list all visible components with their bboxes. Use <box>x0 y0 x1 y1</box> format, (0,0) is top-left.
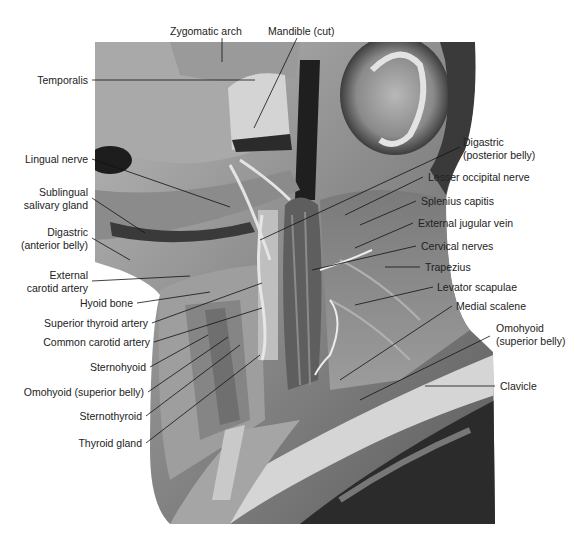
label-sternothyroid: Sternothyroid <box>80 410 142 423</box>
label-common-carotid-artery: Common carotid artery <box>43 336 150 349</box>
label-external-jugular-vein: External jugular vein <box>418 217 513 230</box>
neck-dissection-photo <box>0 0 587 550</box>
label-mandible-cut: Mandible (cut) <box>268 25 335 38</box>
label-line: (anterior belly) <box>21 239 88 252</box>
label-splenius-capitis: Splenius capitis <box>421 195 494 208</box>
label-lesser-occipital-nerve: Lesser occipital nerve <box>428 171 530 184</box>
label-trapezius: Trapezius <box>425 261 471 274</box>
label-line: External <box>27 269 88 282</box>
label-zygomatic-arch: Zygomatic arch <box>170 25 242 38</box>
label-temporalis: Temporalis <box>37 74 88 87</box>
label-superior-thyroid-artery: Superior thyroid artery <box>44 317 148 330</box>
label-lingual-nerve: Lingual nerve <box>25 153 88 166</box>
label-sublingual-salivary-gland: Sublingual salivary gland <box>24 186 88 211</box>
label-line: Omohyoid <box>496 322 565 335</box>
label-omohyoid-superior-belly-right: Omohyoid (superior belly) <box>496 322 565 347</box>
label-line: salivary gland <box>24 199 88 212</box>
label-levator-scapulae: Levator scapulae <box>437 281 517 294</box>
label-hyoid-bone: Hyoid bone <box>80 297 133 310</box>
label-external-carotid-artery: External carotid artery <box>27 269 88 294</box>
label-digastric-posterior-belly: Digastric (posterior belly) <box>463 136 535 161</box>
label-clavicle: Clavicle <box>500 380 537 393</box>
label-line: carotid artery <box>27 282 88 295</box>
label-line: (superior belly) <box>496 335 565 348</box>
label-medial-scalene: Medial scalene <box>456 300 526 313</box>
label-omohyoid-superior-belly-left: Omohyoid (superior belly) <box>24 386 144 399</box>
label-line: Digastric <box>21 226 88 239</box>
label-digastric-anterior-belly: Digastric (anterior belly) <box>21 226 88 251</box>
label-line: Digastric <box>463 136 535 149</box>
label-thyroid-gland: Thyroid gland <box>78 437 142 450</box>
label-sternohyoid: Sternohyoid <box>90 361 146 374</box>
anatomy-figure: Zygomatic arch Mandible (cut) Temporalis… <box>0 0 587 550</box>
label-line: (posterior belly) <box>463 149 535 162</box>
label-cervical-nerves: Cervical nerves <box>421 240 493 253</box>
label-line: Sublingual <box>24 186 88 199</box>
